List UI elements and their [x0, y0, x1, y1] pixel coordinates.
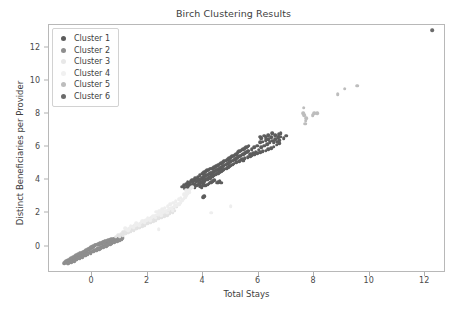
scatter-point [191, 181, 195, 185]
scatter-point [118, 237, 122, 241]
x-tick-mark [369, 272, 370, 276]
scatter-point [81, 250, 85, 254]
scatter-point [203, 194, 207, 198]
scatter-point [178, 203, 182, 207]
scatter-point [305, 117, 309, 121]
scatter-point [228, 156, 232, 160]
scatter-point [125, 228, 129, 232]
scatter-point [108, 241, 112, 245]
scatter-point [204, 184, 208, 188]
scatter-point [207, 182, 211, 186]
scatter-point [87, 251, 91, 255]
legend-item-3[interactable]: Cluster 3 [58, 56, 110, 68]
scatter-point [157, 227, 161, 231]
scatter-point [204, 170, 208, 174]
scatter-point [153, 214, 157, 218]
scatter-point [254, 151, 258, 155]
scatter-point [67, 261, 71, 265]
scatter-point [77, 256, 81, 260]
x-tick-mark [258, 272, 259, 276]
scatter-point [142, 220, 146, 224]
scatter-point [187, 181, 191, 185]
scatter-point [240, 153, 244, 157]
scatter-point [211, 174, 215, 178]
scatter-point [80, 254, 84, 258]
scatter-point [185, 189, 189, 193]
legend-item-2[interactable]: Cluster 2 [58, 45, 110, 57]
scatter-point [182, 197, 186, 201]
scatter-point [260, 136, 264, 140]
scatter-point [96, 242, 100, 246]
scatter-point [167, 208, 171, 212]
scatter-point [99, 245, 103, 249]
x-tick-mark [147, 272, 148, 276]
scatter-point [189, 186, 193, 190]
scatter-point [144, 221, 148, 225]
scatter-point [218, 170, 222, 174]
scatter-point [67, 260, 71, 264]
scatter-point [210, 174, 214, 178]
scatter-point [101, 241, 105, 245]
scatter-point [211, 170, 215, 174]
x-tick-mark [91, 272, 92, 276]
scatter-point [186, 189, 190, 193]
scatter-point [264, 136, 268, 140]
scatter-point [171, 201, 175, 205]
scatter-point [275, 143, 279, 147]
legend-item-6[interactable]: Cluster 6 [58, 91, 110, 103]
scatter-point [119, 237, 123, 241]
scatter-point [106, 239, 110, 243]
scatter-point [219, 170, 223, 174]
scatter-point [75, 254, 79, 258]
scatter-point [126, 231, 130, 235]
scatter-point [232, 154, 236, 158]
scatter-point [311, 113, 315, 117]
legend-item-5[interactable]: Cluster 5 [58, 79, 110, 91]
scatter-point [150, 219, 154, 223]
scatter-point [212, 165, 216, 169]
scatter-point [106, 243, 110, 247]
scatter-point [207, 168, 211, 172]
scatter-point [261, 140, 265, 144]
scatter-point [208, 176, 212, 180]
scatter-point [140, 219, 144, 223]
scatter-point [255, 151, 259, 155]
scatter-point [240, 157, 244, 161]
scatter-point [171, 211, 175, 215]
legend-item-1[interactable]: Cluster 1 [58, 33, 110, 45]
scatter-point [184, 192, 188, 196]
scatter-point [75, 258, 79, 262]
scatter-point [106, 238, 110, 242]
scatter-point [117, 236, 121, 240]
scatter-point [116, 236, 120, 240]
legend-marker-icon [61, 82, 66, 87]
scatter-point [229, 204, 233, 208]
scatter-point [86, 248, 90, 252]
scatter-point [210, 171, 214, 175]
scatter-point [247, 144, 251, 148]
scatter-point [166, 204, 170, 208]
scatter-point [118, 236, 122, 240]
scatter-point [250, 154, 254, 158]
scatter-point [70, 257, 74, 261]
scatter-point [272, 145, 276, 149]
scatter-point [236, 151, 240, 155]
scatter-point [75, 255, 79, 259]
scatter-point [115, 238, 119, 242]
x-tick-mark [202, 272, 203, 276]
scatter-point [200, 181, 204, 185]
scatter-point [69, 261, 73, 265]
scatter-point [192, 179, 196, 183]
scatter-point [87, 247, 91, 251]
scatter-point [196, 179, 200, 183]
scatter-point [123, 232, 127, 236]
scatter-point [73, 258, 77, 262]
scatter-point [246, 150, 250, 154]
scatter-point [102, 244, 106, 248]
chart-legend[interactable]: Cluster 1Cluster 2Cluster 3Cluster 4Clus… [52, 28, 119, 107]
legend-item-4[interactable]: Cluster 4 [58, 68, 110, 80]
scatter-point [214, 169, 218, 173]
scatter-point [235, 156, 239, 160]
scatter-point [94, 248, 98, 252]
scatter-point [124, 227, 128, 231]
